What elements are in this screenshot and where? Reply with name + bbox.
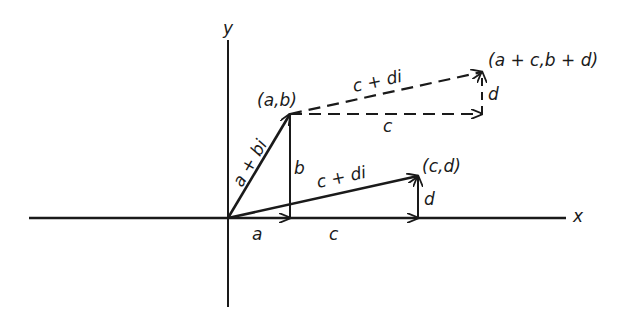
segment-c-dashed-label: c (383, 116, 393, 136)
complex-vector-diagram: y x (a,b) (c,d) (a + c,b + d) a + bi c +… (0, 0, 622, 311)
segment-d-dashed-label: d (488, 84, 499, 104)
x-axis-label: x (572, 206, 584, 226)
segment-a-label: a (252, 224, 262, 244)
vector-a-plus-bi-label: a + bi (228, 136, 271, 190)
vector-c-plus-di-translated-label: c + di (351, 66, 404, 96)
y-axis-label: y (222, 18, 234, 38)
vector-c-plus-di-label: c + di (315, 162, 368, 192)
segment-d-vertical-label: d (424, 189, 435, 209)
point-cd-label: (c,d) (422, 156, 461, 176)
segment-c-axis-label: c (329, 224, 339, 244)
segment-b-label: b (294, 158, 305, 178)
point-ab-label: (a,b) (257, 90, 297, 110)
point-sum-label: (a + c,b + d) (488, 50, 598, 70)
